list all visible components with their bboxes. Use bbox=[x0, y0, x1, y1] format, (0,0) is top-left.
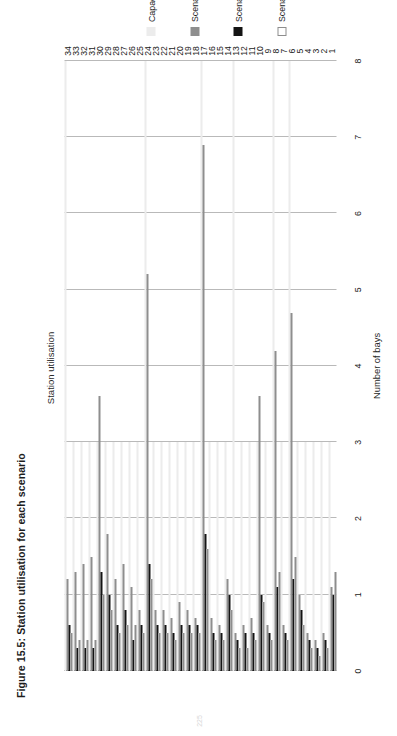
legend-swatch-scenario-3-icon bbox=[277, 27, 286, 36]
legend-item-scenario-2[interactable]: Scenario 2 bbox=[233, 0, 243, 36]
y-tick-8: 8 bbox=[352, 52, 362, 70]
bar-scenario-3-station-22 bbox=[166, 633, 168, 671]
legend-label: Scenario 1 bbox=[189, 0, 199, 22]
station-group-21 bbox=[168, 61, 176, 671]
station-group-30 bbox=[96, 61, 104, 671]
y-tick-0: 0 bbox=[352, 662, 362, 680]
bar-scenario-3-station-7 bbox=[286, 641, 288, 672]
bar-scenario-3-station-3 bbox=[318, 656, 320, 671]
legend-label: Scenario 3 bbox=[276, 0, 286, 22]
bar-scenario-3-station-11 bbox=[254, 641, 256, 672]
chart-title: Station utilisation bbox=[44, 0, 55, 736]
bar-scenario-3-station-4 bbox=[310, 648, 312, 671]
bar-scenario-3-station-14 bbox=[230, 610, 232, 671]
station-group-5 bbox=[296, 61, 304, 671]
station-group-16 bbox=[208, 61, 216, 671]
bar-scenario-3-station-10 bbox=[262, 602, 264, 671]
bar-capacity-station-3 bbox=[312, 442, 314, 671]
station-group-12 bbox=[240, 61, 248, 671]
bar-scenario-3-station-34 bbox=[70, 633, 72, 671]
page-number: 225 bbox=[0, 706, 397, 736]
station-group-4 bbox=[304, 61, 312, 671]
station-group-17 bbox=[200, 61, 208, 671]
station-group-13 bbox=[232, 61, 240, 671]
station-group-29 bbox=[104, 61, 112, 671]
station-group-11 bbox=[248, 61, 256, 671]
bar-scenario-3-station-17 bbox=[206, 549, 208, 671]
station-group-20 bbox=[176, 61, 184, 671]
station-group-33 bbox=[72, 61, 80, 671]
station-group-1 bbox=[328, 61, 336, 671]
bar-scenario-3-station-16 bbox=[214, 641, 216, 672]
y-axis-tick-labels: 012345678 bbox=[352, 61, 366, 671]
bar-scenario-3-station-21 bbox=[174, 641, 176, 672]
legend-label: Capacity bbox=[146, 0, 156, 22]
station-group-14 bbox=[224, 61, 232, 671]
y-tick-2: 2 bbox=[352, 510, 362, 528]
bar-capacity-station-13 bbox=[232, 61, 234, 671]
station-group-23 bbox=[152, 61, 160, 671]
y-tick-4: 4 bbox=[352, 357, 362, 375]
bar-scenario-3-station-33 bbox=[78, 641, 80, 672]
bar-scenario-3-station-6 bbox=[294, 557, 296, 671]
bar-scenario-3-station-18 bbox=[198, 633, 200, 671]
station-group-6 bbox=[288, 61, 296, 671]
station-group-7 bbox=[280, 61, 288, 671]
figure-page: Figure 15.5: Station utilisation for eac… bbox=[0, 0, 397, 736]
bar-scenario-3-station-23 bbox=[158, 633, 160, 671]
station-group-10 bbox=[256, 61, 264, 671]
y-tick-6: 6 bbox=[352, 205, 362, 223]
y-tick-7: 7 bbox=[352, 128, 362, 146]
legend-item-scenario-3[interactable]: Scenario 3 bbox=[276, 0, 286, 36]
bar-scenario-3-station-8 bbox=[278, 572, 280, 671]
station-group-9 bbox=[264, 61, 272, 671]
station-group-32 bbox=[80, 61, 88, 671]
station-group-19 bbox=[184, 61, 192, 671]
bar-scenario-3-station-13 bbox=[238, 648, 240, 671]
y-axis-label: Number of bays bbox=[370, 61, 381, 671]
bar-scenario-3-station-12 bbox=[246, 648, 248, 671]
station-group-15 bbox=[216, 61, 224, 671]
y-tick-3: 3 bbox=[352, 433, 362, 451]
station-group-25 bbox=[136, 61, 144, 671]
legend-item-capacity[interactable]: Capacity bbox=[146, 0, 156, 36]
bar-scenario-3-station-31 bbox=[94, 641, 96, 672]
station-group-3 bbox=[312, 61, 320, 671]
legend-item-scenario-1[interactable]: Scenario 1 bbox=[189, 0, 199, 36]
station-group-26 bbox=[128, 61, 136, 671]
bar-scenario-3-station-9 bbox=[270, 641, 272, 672]
legend-swatch-scenario-1-icon bbox=[190, 27, 199, 36]
y-tick-1: 1 bbox=[352, 586, 362, 604]
bar-scenario-3-station-5 bbox=[302, 625, 304, 671]
legend-label: Scenario 2 bbox=[233, 0, 243, 22]
bar-scenario-3-station-27 bbox=[126, 625, 128, 671]
legend-swatch-capacity-icon bbox=[146, 27, 155, 36]
bar-scenario-3-station-2 bbox=[326, 648, 328, 671]
legend-swatch-scenario-2-icon bbox=[233, 27, 242, 36]
bar-scenario-3-station-19 bbox=[190, 633, 192, 671]
bar-scenario-3-station-15 bbox=[222, 641, 224, 672]
station-group-24 bbox=[144, 61, 152, 671]
station-group-27 bbox=[120, 61, 128, 671]
station-group-31 bbox=[88, 61, 96, 671]
bar-scenario-3-station-30 bbox=[102, 595, 104, 671]
station-group-22 bbox=[160, 61, 168, 671]
station-group-28 bbox=[112, 61, 120, 671]
x-tick-station-34: 34 bbox=[62, 41, 72, 61]
bar-scenario-3-station-28 bbox=[118, 633, 120, 671]
bar-scenario-3-station-32 bbox=[86, 641, 88, 672]
bar-scenario-3-station-29 bbox=[110, 610, 112, 671]
bar-scenario-3-station-24 bbox=[150, 580, 152, 672]
plot-area bbox=[64, 61, 336, 671]
station-group-34 bbox=[64, 61, 72, 671]
figure-caption: Figure 15.5: Station utilisation for eac… bbox=[14, 453, 26, 698]
chart-legend: CapacityScenario 1Scenario 2Scenario 3 bbox=[64, 6, 336, 36]
bar-scenario-3-station-25 bbox=[142, 633, 144, 671]
y-tick-5: 5 bbox=[352, 281, 362, 299]
station-group-8 bbox=[272, 61, 280, 671]
bar-scenario-3-station-26 bbox=[134, 625, 136, 671]
bar-scenario-3-station-20 bbox=[182, 633, 184, 671]
bar-scenario-3-station-1 bbox=[334, 572, 336, 671]
station-group-2 bbox=[320, 61, 328, 671]
x-axis-tick-labels: 1234567891011121314151617181920212223242… bbox=[64, 35, 336, 61]
